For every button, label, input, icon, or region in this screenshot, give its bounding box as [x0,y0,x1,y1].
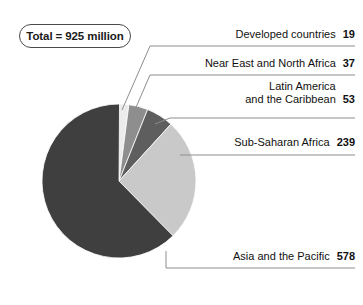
pie-label-value: 578 [337,250,355,263]
leader-line-latin-america-caribbean [155,118,355,124]
pie-label-near-east-north-africa: Near East and North Africa 37 [120,57,355,70]
pie-slices [42,104,196,258]
pie-label-latin-america-caribbean: Latin America and the Caribbean 53 [140,80,355,106]
pie-label-text: Asia and the Pacific [233,250,330,263]
pie-label-text: Latin America and the Caribbean [245,80,336,106]
pie-label-sub-saharan-africa: Sub-Saharan Africa 239 [150,136,355,149]
pie-label-value: 53 [343,93,355,106]
pie-label-value: 37 [343,57,355,70]
pie-label-value: 19 [343,28,355,41]
pie-label-text: Near East and North Africa [205,57,336,70]
pie-label-text: Developed countries [235,28,335,41]
pie-chart-figure: Total = 925 million Developed countries … [0,0,363,305]
pie-label-developed-countries: Developed countries 19 [150,28,355,41]
pie-label-text-line1: Latin America [269,80,336,92]
pie-label-text-line2: and the Caribbean [245,93,336,105]
pie-label-asia-and-the-pacific: Asia and the Pacific 578 [150,250,355,263]
pie-label-value: 239 [337,136,355,149]
pie-label-text: Sub-Saharan Africa [234,136,329,149]
